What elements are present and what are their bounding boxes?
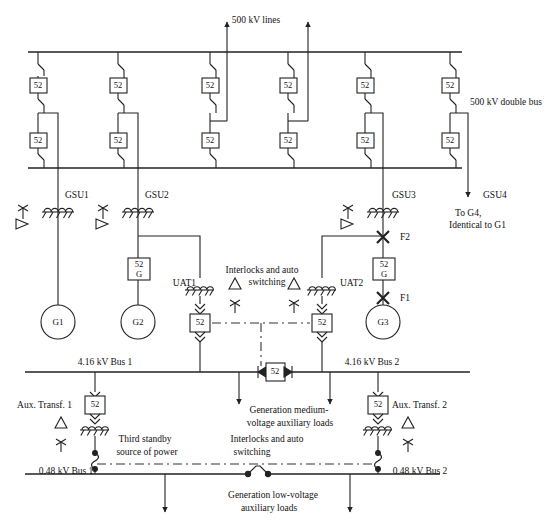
gen-breaker-2-letter: G [136, 269, 142, 279]
surge-arrester-1 [16, 205, 28, 229]
hv-bay-6[interactable] [442, 52, 468, 168]
interlock-symbol-mv-2 [288, 278, 300, 313]
label-gsu3: GSU3 [392, 190, 416, 200]
single-line-diagram-svg: 500 kV lines 500 kV double bus GSU1 GSU2… [0, 0, 554, 528]
breaker-code-1a: 52 [34, 80, 43, 90]
label-mv-loads-1: Generation medium- [250, 405, 329, 415]
label-to-g4-line2: Identical to G1 [449, 220, 506, 230]
breaker-code-4a: 52 [284, 80, 293, 90]
aux-transformer-2-winding [363, 427, 392, 436]
label-mv-loads-2: voltage auxiliary loads [247, 418, 334, 428]
hv-bay-4[interactable] [280, 52, 308, 168]
interlock-symbol-mv-1 [229, 278, 241, 313]
label-lv-loads-1: Generation low-voltage [228, 490, 318, 500]
surge-arrester-aux-2 [402, 417, 414, 452]
breaker-code-3b: 52 [206, 135, 215, 145]
uat1-unit [185, 287, 214, 372]
hv-bay-2[interactable] [110, 52, 138, 168]
hv-bay-1[interactable] [30, 52, 58, 168]
gen-breaker-2-code: 52 [135, 259, 144, 269]
breaker-code-5a: 52 [361, 80, 370, 90]
aux-transformer-2 [363, 372, 392, 474]
surge-arrester-3 [341, 205, 353, 229]
label-gsu1: GSU1 [65, 190, 89, 200]
label-interlocks-mv-2: switching [249, 277, 286, 287]
mv-tie-breaker-code: 52 [271, 366, 280, 376]
label-f1: F1 [400, 293, 410, 303]
generator-label-g3: G3 [378, 317, 389, 327]
breaker-code-2a: 52 [114, 80, 123, 90]
surge-arrester-aux-1 [55, 417, 67, 452]
label-aux-transf-2: Aux. Transf. 2 [392, 400, 447, 410]
uat2-transformer [307, 287, 336, 296]
uat2-breaker-code: 52 [318, 317, 327, 327]
label-mv-bus-2: 4.16 kV Bus 2 [345, 357, 400, 367]
diagram-canvas: 500 kV lines 500 kV double bus GSU1 GSU2… [0, 0, 554, 528]
breaker-code-3a: 52 [206, 80, 215, 90]
surge-arrester-2 [96, 205, 108, 229]
breaker-code-4b: 52 [284, 135, 293, 145]
hv-bay-3[interactable] [202, 52, 227, 168]
aux-transformer-1 [80, 372, 109, 474]
breaker-code-6b: 52 [446, 135, 455, 145]
generator-label-g2: G2 [133, 317, 144, 327]
label-double-bus: 500 kV double bus [470, 97, 542, 107]
label-f2: F2 [400, 232, 410, 242]
label-uat2: UAT2 [340, 278, 363, 288]
label-interlocks-lv-2: switching [234, 447, 271, 457]
breaker-code-6a: 52 [446, 80, 455, 90]
label-hv-lines: 500 kV lines [232, 15, 281, 25]
label-gsu4: GSU4 [483, 190, 507, 200]
gen-breaker-3-letter: G [381, 269, 387, 279]
gen-breaker-3-code: 52 [380, 259, 389, 269]
breaker-code-1b: 52 [34, 135, 43, 145]
uat1-breaker-code: 52 [196, 317, 205, 327]
label-lv-bus-2: 0.48 kV Bus 2 [393, 466, 448, 476]
label-gsu2: GSU2 [145, 190, 169, 200]
aux2-breaker-code: 52 [374, 399, 383, 409]
label-interlocks-lv-1: Interlocks and auto [231, 434, 304, 444]
label-interlocks-mv-1: Interlocks and auto [226, 265, 299, 275]
label-lv-bus-1: 0.48 kV Bus 1 [39, 466, 94, 476]
label-mv-bus-1: 4.16 kV Bus 1 [78, 357, 133, 367]
label-lv-loads-2: auxiliary loads [241, 503, 297, 513]
breaker-code-5b: 52 [361, 135, 370, 145]
gsu3-branch [322, 168, 400, 339]
label-third-standby-1: Third standby [118, 434, 171, 444]
hv-bay-5[interactable] [357, 52, 383, 168]
label-aux-transf-1: Aux. Transf. 1 [17, 400, 72, 410]
label-to-g4-line1: To G4, [455, 208, 481, 218]
aux-transformer-1-winding [80, 427, 109, 436]
label-third-standby-2: source of power [116, 447, 178, 457]
aux1-breaker-code: 52 [91, 399, 100, 409]
label-uat1: UAT1 [173, 278, 196, 288]
lv-bus-tie-breaker[interactable] [245, 466, 270, 477]
generator-label-g1: G1 [53, 317, 64, 327]
uat2-unit [307, 287, 336, 372]
breaker-code-2b: 52 [114, 135, 123, 145]
